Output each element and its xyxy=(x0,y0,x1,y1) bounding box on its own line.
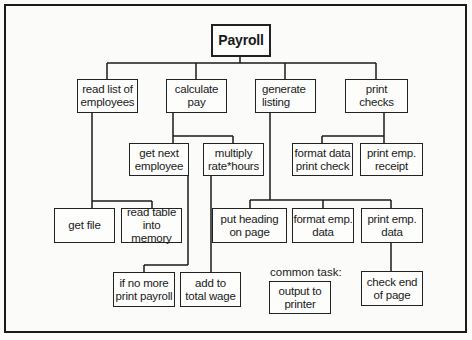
node-if-no-more-print-payroll: if no more print payroll xyxy=(113,272,175,307)
node-check-end-of-page: check end of page xyxy=(361,271,423,306)
node-get-next-employee: get next employee xyxy=(129,143,189,176)
node-calculate-pay: calculate pay xyxy=(166,79,227,113)
common-task-label: common task: xyxy=(270,266,342,278)
node-format-emp-data: format emp. data xyxy=(292,208,354,243)
node-get-file: get file xyxy=(54,208,115,243)
node-add-to-total-wage: add to total wage xyxy=(180,272,241,307)
node-read-table-into-memory: read table into memory xyxy=(121,208,182,243)
node-multiply-rate-hours: multiply rate*hours xyxy=(203,143,264,176)
node-generate-listing: generate listing xyxy=(255,79,316,113)
node-payroll: Payroll xyxy=(211,24,271,57)
node-print-emp-receipt: print emp. receipt xyxy=(360,143,423,176)
node-format-data-print-check: format data print check xyxy=(292,143,353,176)
node-print-checks: print checks xyxy=(345,79,408,113)
node-put-heading-on-page: put heading on page xyxy=(212,208,287,243)
node-print-emp-data: print emp. data xyxy=(361,208,423,243)
node-output-to-printer: output to printer xyxy=(269,281,331,314)
node-read-list-of-employees: read list of employees xyxy=(77,79,138,113)
